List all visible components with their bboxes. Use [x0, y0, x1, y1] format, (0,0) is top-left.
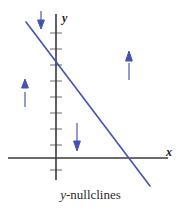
direction-arrows [22, 11, 133, 151]
caption-text: -nullclines [66, 187, 121, 202]
y-nullclines-figure: y x y-nullclines [0, 0, 181, 214]
x-axis-label: x [166, 146, 172, 158]
y-axis-label: y [62, 12, 67, 24]
figure-caption: y-nullclines [0, 188, 181, 201]
y-nullcline-line [26, 22, 150, 186]
arrow-head-down [74, 141, 81, 151]
arrow-left-up [22, 79, 29, 107]
arrow-right-up [126, 51, 133, 80]
arrow-top-left-down [38, 11, 45, 29]
phase-plane-plot [0, 0, 181, 214]
arrow-middle-down [74, 123, 81, 151]
arrow-head-down [38, 20, 45, 29]
arrow-head-up [22, 79, 29, 88]
arrow-head-up [126, 51, 133, 61]
